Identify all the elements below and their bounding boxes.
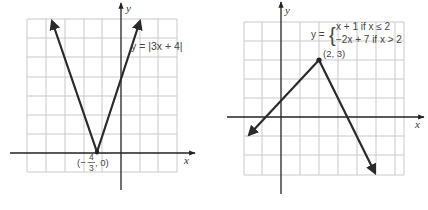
right-y-axis-label: y (284, 4, 290, 16)
right-vertex-label: (2, 3) (323, 48, 345, 59)
left-function-label: y = |3x + 4| (131, 40, 183, 52)
svg-text:y =: y = (311, 29, 325, 40)
right-graph: y x y = { x + 1 if x ≤ 2 −2x + 7 if x > … (227, 2, 424, 194)
svg-text:4: 4 (89, 152, 94, 162)
svg-text:{: { (329, 24, 336, 46)
svg-text:−2x + 7 if x > 2: −2x + 7 if x > 2 (336, 34, 402, 45)
left-x-axis-label: x (183, 154, 189, 166)
left-vertex-label: (− 4 3 , 0) (77, 152, 109, 173)
svg-text:, 0): , 0) (95, 157, 109, 168)
right-x-axis-label: x (414, 118, 420, 130)
right-vertex-point (316, 57, 321, 62)
left-graph: y x y = |3x + 4| (− 4 3 , 0) (10, 2, 195, 190)
left-y-axis-label: y (125, 2, 131, 14)
svg-text:x + 1 if x ≤ 2: x + 1 if x ≤ 2 (336, 21, 391, 32)
figure: y x y = |3x + 4| (− 4 3 , 0) (0, 0, 428, 210)
right-function-label: y = { x + 1 if x ≤ 2 −2x + 7 if x > 2 (311, 21, 402, 46)
left-vertex-point (95, 150, 99, 154)
svg-text:(−: (− (77, 157, 86, 168)
svg-text:3: 3 (89, 163, 94, 173)
